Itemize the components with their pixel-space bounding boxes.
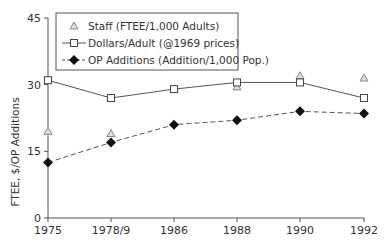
line-chart: 015304519751978/91986198819901992 Staff … — [0, 0, 384, 249]
square-marker — [171, 86, 178, 93]
series-0 — [44, 72, 368, 137]
square-marker — [297, 79, 304, 86]
legend: Staff (FTEE/1,000 Adults)Dollars/Adult (… — [56, 13, 269, 70]
square-marker — [45, 77, 52, 84]
diamond-marker — [43, 157, 53, 167]
diamond-marker — [106, 137, 116, 147]
x-tick-label: 1975 — [34, 224, 62, 237]
diamond-marker — [295, 106, 305, 116]
x-tick-label: 1986 — [160, 224, 188, 237]
triangle-marker — [44, 127, 52, 134]
x-tick-label: 1992 — [350, 224, 378, 237]
y-axis-label: FTEE, $/OP Additions — [9, 97, 21, 206]
legend-label: Dollars/Adult (@1969 prices) — [88, 37, 239, 49]
x-tick-label: 1990 — [286, 224, 314, 237]
legend-label: Staff (FTEE/1,000 Adults) — [88, 20, 219, 32]
square-marker — [234, 79, 241, 86]
series-line — [48, 80, 364, 98]
diamond-marker — [169, 120, 179, 130]
series-1 — [45, 77, 368, 102]
diamond-marker — [232, 115, 242, 125]
series-line — [48, 111, 364, 162]
series-2 — [43, 106, 369, 167]
y-tick-label: 45 — [27, 12, 41, 25]
triangle-marker — [360, 74, 368, 81]
series-layer — [43, 72, 369, 168]
triangle-marker — [107, 130, 115, 137]
square-marker — [108, 95, 115, 102]
y-tick-label: 30 — [27, 79, 41, 92]
diamond-marker — [359, 109, 369, 119]
triangle-marker — [296, 72, 304, 79]
square-marker — [361, 95, 368, 102]
x-tick-label: 1988 — [223, 224, 251, 237]
y-tick-label: 15 — [27, 145, 41, 158]
x-tick-label: 1978/9 — [92, 224, 131, 237]
square-marker — [71, 40, 78, 47]
legend-label: OP Additions (Addition/1,000 Pop.) — [88, 54, 269, 66]
